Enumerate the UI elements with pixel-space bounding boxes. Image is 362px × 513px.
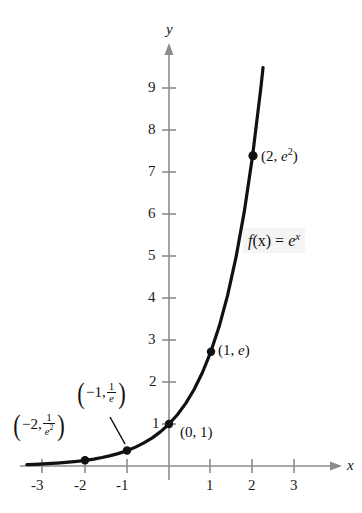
- y-tick-label-1: 1: [152, 416, 160, 431]
- y-tick-label-3: 3: [148, 332, 156, 347]
- paren-open-minus1: (: [77, 381, 85, 404]
- point-label-2-e: e: [281, 148, 288, 164]
- point-label-minus2-1overe2: (−2,1e2): [12, 412, 66, 438]
- point-label-2-open: (2,: [261, 148, 281, 164]
- point-label-1-close: ): [245, 342, 250, 358]
- point-minus2: [81, 456, 89, 464]
- fraction-numerator: 1: [107, 381, 117, 392]
- point-one: [207, 348, 215, 356]
- x-tick-label-minus2: -2: [74, 478, 87, 493]
- fraction-numerator-2: 1: [44, 412, 54, 423]
- point-two: [248, 151, 257, 160]
- y-tick-label-5: 5: [148, 248, 156, 263]
- point-label-minus2-x: −2,: [22, 417, 42, 432]
- x-tick-label-1: 1: [206, 478, 214, 493]
- fraction-den-exponent: 2: [50, 423, 54, 432]
- paren-close-minus1: ): [118, 381, 126, 404]
- x-tick-label-minus3: -3: [31, 478, 44, 493]
- fraction-denominator-2: e2: [43, 423, 56, 437]
- x-tick-label-2: 2: [248, 478, 256, 493]
- y-tick-label-2: 2: [149, 374, 157, 389]
- point-minus1: [123, 446, 131, 454]
- point-label-minus1-x: −1,: [86, 385, 106, 400]
- paren-close-minus2: ): [58, 413, 66, 436]
- y-axis: [162, 43, 176, 480]
- point-label-minus1-1overe: (−1,1e): [76, 381, 127, 406]
- function-label-equals: =: [271, 232, 288, 249]
- y-tick-label-6: 6: [148, 206, 156, 221]
- point-label-1-e: (1, e): [218, 343, 250, 358]
- function-label-of-x: (x): [252, 232, 271, 249]
- function-label-exponent: x: [295, 230, 300, 242]
- exponential-curve: [27, 68, 263, 465]
- fraction-1-over-e2: 1e2: [43, 412, 56, 437]
- x-tick-label-3: 3: [290, 478, 298, 493]
- fraction-1-over-e: 1e: [107, 381, 117, 404]
- point-zero: [165, 420, 173, 428]
- paren-open-minus2: (: [13, 413, 21, 436]
- fraction-denominator: e: [107, 392, 116, 404]
- point-label-2-close: ): [293, 148, 298, 164]
- y-tick-label-4: 4: [148, 290, 156, 305]
- exponential-function-figure: 9 8 7 6 5 4 3 2 1 -3 -2 -1 1 2 3 y x f(x…: [0, 0, 362, 513]
- point-label-1-open: (1,: [218, 342, 238, 358]
- point-label-2-e2: (2, e2): [261, 147, 298, 164]
- y-axis-name: y: [166, 22, 173, 37]
- y-tick-label-7: 7: [148, 164, 156, 179]
- y-tick-label-8: 8: [148, 122, 156, 137]
- y-tick-label-9: 9: [148, 80, 156, 95]
- x-axis-name: x: [347, 458, 354, 473]
- x-tick-label-minus1: -1: [116, 478, 129, 493]
- point-label-0-1: (0, 1): [180, 425, 213, 440]
- point-label-1-e: e: [238, 342, 245, 358]
- leader-line-minus1: [110, 417, 125, 444]
- function-label: f(x) = ex: [243, 228, 305, 253]
